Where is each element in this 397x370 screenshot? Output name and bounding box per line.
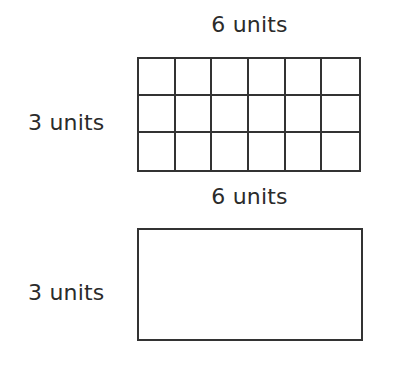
grid-height-label: 3 units	[28, 110, 132, 136]
grid-cell	[249, 133, 286, 170]
grid-cell	[286, 133, 323, 170]
grid-cell	[176, 133, 213, 170]
grid-cell	[139, 96, 176, 133]
grid-cell	[249, 59, 286, 96]
figure-canvas: 6 units 3 units 6 units 3 units	[0, 0, 397, 370]
grid-cell	[139, 59, 176, 96]
rectangle-height-label: 3 units	[28, 280, 132, 306]
grid-cell	[322, 133, 359, 170]
grid-cell	[322, 59, 359, 96]
grid-cell	[212, 133, 249, 170]
plain-rectangle	[137, 228, 363, 341]
grid-cell	[286, 59, 323, 96]
rectangle-width-label: 6 units	[0, 184, 397, 210]
grid-cell	[212, 96, 249, 133]
grid-cell	[249, 96, 286, 133]
grid-width-label: 6 units	[0, 12, 397, 38]
grid-cell	[176, 59, 213, 96]
grid-cell	[212, 59, 249, 96]
grid-cell	[176, 96, 213, 133]
grid-cell	[286, 96, 323, 133]
grid-cell	[322, 96, 359, 133]
partitioned-grid-rectangle	[137, 57, 361, 172]
grid-cell	[139, 133, 176, 170]
